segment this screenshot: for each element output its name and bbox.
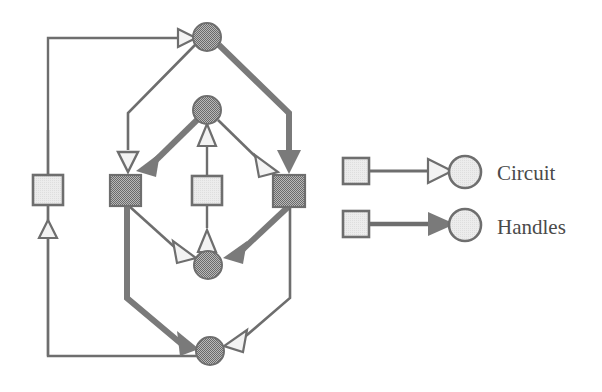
place-lower-mid[interactable] [194, 251, 222, 279]
legend-circuit-square [343, 158, 369, 184]
legend-circuit-circle [449, 156, 481, 188]
edge-center-to-lower-mid-place [198, 205, 216, 252]
place-upper-mid[interactable] [193, 96, 221, 124]
legend-handles-square [343, 211, 369, 237]
legend: Circuit Handles [343, 156, 566, 241]
transition-right-inner[interactable] [273, 175, 305, 207]
legend-handles-label: Handles [497, 215, 566, 239]
legend-circuit-label: Circuit [497, 161, 555, 185]
edge-top-to-left-inner-transition [118, 44, 196, 172]
edge-right-inner-to-lower-mid-place [223, 207, 288, 264]
edge-top-to-right-inner-transition [219, 45, 301, 174]
place-top[interactable] [193, 23, 221, 51]
transition-left-outer[interactable] [33, 175, 63, 205]
legend-handles-circle [449, 209, 481, 241]
edge-loop-to-left-outer-square [39, 130, 57, 356]
edge-upper-mid-to-right-inner-transition [218, 120, 278, 177]
petri-net-diagram: Circuit Handles [0, 0, 602, 392]
diagram-canvas: Circuit Handles [0, 0, 602, 392]
edge-center-to-upper-mid-place [198, 124, 216, 176]
transition-left-inner[interactable] [110, 175, 141, 206]
transition-center[interactable] [192, 176, 222, 205]
place-bottom[interactable] [196, 337, 224, 365]
edge-upper-mid-to-left-inner-transition [136, 120, 197, 177]
edge-left-inner-to-bottom-place [127, 206, 199, 356]
legend-entry-circuit: Circuit [343, 156, 555, 188]
edge-left-inner-to-lower-mid-place [129, 206, 196, 263]
legend-entry-handles: Handles [343, 209, 566, 241]
edge-right-inner-to-bottom-place [224, 207, 290, 352]
